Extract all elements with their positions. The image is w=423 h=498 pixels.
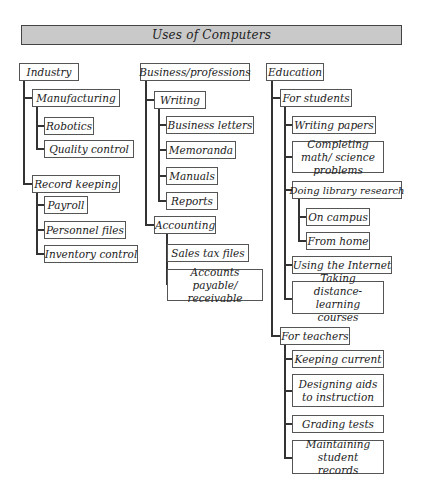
- node-quality-control: Quality control: [44, 140, 134, 158]
- connector: [298, 199, 300, 241]
- node-maintaining-student-records: Maintaining student records: [292, 440, 384, 474]
- node-business-professions: Business/professions: [140, 63, 250, 81]
- node-inventory-control: Inventory control: [44, 245, 138, 263]
- node-personnel-files: Personnel files: [44, 221, 126, 239]
- node-education: Education: [266, 63, 324, 81]
- connector: [36, 193, 38, 254]
- node-reports: Reports: [166, 192, 218, 210]
- connector: [271, 81, 273, 336]
- connector: [284, 345, 286, 458]
- diagram-title-bar: Uses of Computers: [21, 25, 402, 45]
- connector: [36, 107, 38, 149]
- node-keeping-current: Keeping current: [292, 350, 384, 368]
- connector: [145, 81, 147, 225]
- node-for-students: For students: [280, 89, 352, 107]
- node-completing-math-science: Completing math/ science problems: [292, 141, 384, 173]
- node-from-home: From home: [306, 232, 370, 250]
- node-manufacturing: Manufacturing: [32, 89, 120, 107]
- connector: [158, 109, 160, 201]
- node-robotics: Robotics: [44, 117, 94, 135]
- diagram-title: Uses of Computers: [152, 28, 271, 42]
- node-accounts-payable-receivable: Accounts payable/ receivable: [167, 269, 263, 301]
- node-accounting: Accounting: [154, 216, 216, 234]
- node-industry: Industry: [19, 63, 79, 81]
- node-on-campus: On campus: [306, 208, 370, 226]
- node-doing-library-research: Doing library research: [292, 181, 402, 199]
- node-manuals: Manuals: [166, 167, 218, 185]
- node-sales-tax-files: Sales tax files: [167, 244, 249, 262]
- node-record-keeping: Record keeping: [32, 175, 120, 193]
- node-writing-papers: Writing papers: [292, 116, 376, 134]
- node-memoranda: Memoranda: [166, 141, 236, 159]
- node-designing-aids: Designing aids to instruction: [292, 374, 384, 407]
- node-for-teachers: For teachers: [280, 327, 350, 345]
- connector: [284, 107, 286, 299]
- node-business-letters: Business letters: [166, 116, 254, 134]
- node-writing: Writing: [154, 91, 206, 109]
- node-grading-tests: Grading tests: [292, 415, 384, 433]
- node-payroll: Payroll: [44, 196, 88, 214]
- node-taking-distance-learning: Taking distance-learning courses: [292, 281, 384, 314]
